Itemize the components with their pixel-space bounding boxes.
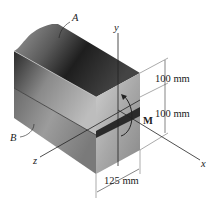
- dim-upper-text: 100 mm: [155, 73, 190, 84]
- label-z: z: [32, 155, 37, 166]
- label-x: x: [200, 158, 206, 169]
- label-a: A: [71, 12, 79, 23]
- beam-diagram: A B y z x M 100 mm 100 mm 125 mm: [0, 0, 218, 209]
- dim-lower-text: 100 mm: [155, 108, 190, 119]
- label-b: B: [10, 132, 17, 143]
- label-moment: M: [143, 115, 153, 126]
- label-y: y: [113, 22, 119, 33]
- dim-width-text: 125 mm: [104, 175, 139, 186]
